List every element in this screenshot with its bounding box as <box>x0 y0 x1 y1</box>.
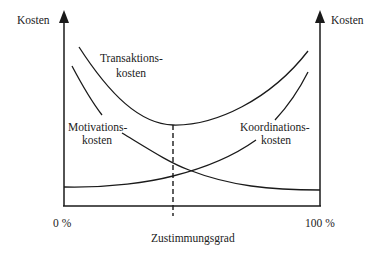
x-max-label: 100 % <box>305 217 335 229</box>
right-axis-label: Kosten <box>331 14 364 26</box>
right-axis-arrow-icon <box>315 10 325 23</box>
motivation-label-line2: kosten <box>82 134 112 146</box>
x-min-label: 0 % <box>53 217 72 229</box>
left-axis-label: Kosten <box>17 14 50 26</box>
x-axis-label: Zustimmungsgrad <box>151 232 235 245</box>
left-axis-arrow-icon <box>59 10 69 23</box>
cost-diagram: Kosten Kosten Transaktions- kosten Motiv… <box>0 0 387 262</box>
transaction-label-line2: kosten <box>116 67 146 79</box>
coordination-cost-curve-upper <box>275 72 308 120</box>
motivation-label-line1: Motivations- <box>68 121 128 133</box>
coordination-label-line1: Koordinations- <box>240 121 310 133</box>
transaction-label-line1: Transaktions- <box>100 52 163 64</box>
coordination-cost-curve-lower <box>64 140 256 187</box>
coordination-label-line2: kosten <box>261 134 291 146</box>
